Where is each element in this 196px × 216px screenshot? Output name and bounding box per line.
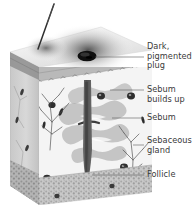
label-follicle: Follicle <box>147 170 175 180</box>
skin-follicle-diagram: Dark, pigmented plug Sebum builds up Seb… <box>0 0 196 216</box>
dark-pigmented-plug <box>78 51 97 61</box>
label-sebum-builds-up: Sebum builds up <box>147 85 185 104</box>
diagram-illustration <box>0 0 196 216</box>
label-dark-pigmented-plug: Dark, pigmented plug <box>147 42 192 71</box>
label-sebaceous-gland: Sebaceous gland <box>147 136 192 155</box>
skin-left-face <box>10 52 39 205</box>
label-sebum: Sebum <box>147 113 176 123</box>
skin-front-face <box>36 50 152 205</box>
